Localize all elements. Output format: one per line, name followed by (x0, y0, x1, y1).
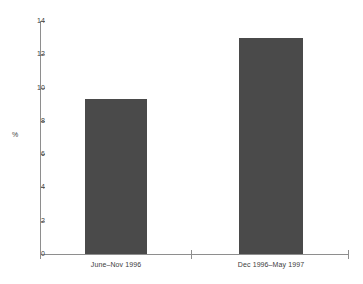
y-axis-tick-label: 6 (19, 150, 45, 157)
bar-chart: % 02468101214 June–Nov 1996Dec 1996–May … (0, 0, 363, 284)
y-axis-tick-label: 0 (19, 250, 45, 257)
bar (239, 38, 303, 254)
y-axis-tick-label: 8 (19, 117, 45, 124)
x-axis-tick-label: June–Nov 1996 (56, 261, 176, 269)
x-axis-tick-label: Dec 1996–May 1997 (211, 261, 331, 269)
y-axis-tick-label: 14 (19, 17, 45, 24)
bar (85, 99, 147, 254)
y-axis-title: % (12, 131, 18, 139)
x-axis-tick-left (40, 250, 41, 259)
y-axis-tick-label: 2 (19, 217, 45, 224)
x-axis-tick-right (348, 250, 349, 259)
y-axis-tick-label: 12 (19, 50, 45, 57)
x-axis-tick-middle (191, 250, 192, 259)
y-axis-tick-label: 10 (19, 84, 45, 91)
x-axis-line (40, 254, 348, 255)
y-axis-tick-label: 4 (19, 183, 45, 190)
